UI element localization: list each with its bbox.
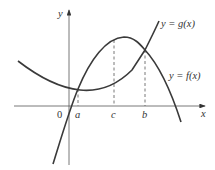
point-label-a: a bbox=[75, 109, 80, 120]
x-axis-label: x bbox=[200, 108, 206, 119]
curve-label-g: y = g(x) bbox=[160, 18, 195, 30]
y-axis-label: y bbox=[57, 8, 63, 19]
point-label-b: b bbox=[142, 109, 147, 120]
curve-label-f: y = f(x) bbox=[168, 70, 201, 82]
curve-f bbox=[18, 50, 181, 122]
graph-canvas: y x 0 a c b y = g(x) y = f(x) bbox=[0, 0, 215, 170]
origin-label: 0 bbox=[57, 109, 62, 120]
point-label-c: c bbox=[111, 109, 116, 120]
